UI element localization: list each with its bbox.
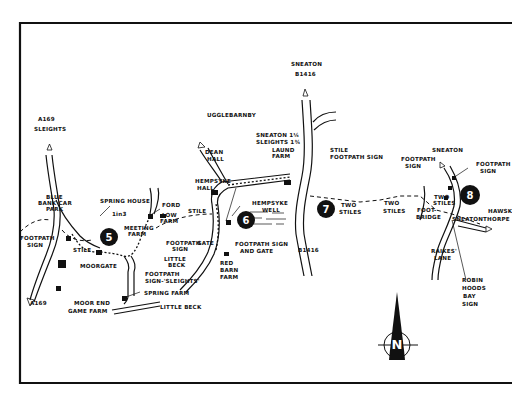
label-laund-farm-2: FARM xyxy=(272,153,290,159)
label-stile-west: STILE xyxy=(73,247,91,253)
label-gate: GATE xyxy=(197,240,214,246)
walking-route-map: 5 6 7 8 N A169 SLEIGHTS BLUE BANK CAR PA… xyxy=(0,0,512,406)
label-footpath-sign-gate-1: FOOTPATH SIGN xyxy=(235,241,288,247)
label-footpath-sign-8b: SIGN xyxy=(480,168,496,174)
label-rhb-3: BAY xyxy=(463,293,476,299)
waypoint-7: 7 xyxy=(317,200,335,218)
compass-letter: N xyxy=(392,337,403,352)
label-rhb-4: SIGN xyxy=(462,301,478,307)
label-b1416-north: B1416 xyxy=(295,71,316,77)
waypoint-8: 8 xyxy=(460,185,480,205)
label-little-beck-stream-2: BECK xyxy=(168,262,186,268)
water-lake xyxy=(250,212,286,224)
label-footpath-sign-sleights-2: SIGN-'SLEIGHTS' xyxy=(145,278,200,284)
label-blue-bank-3: PARK xyxy=(46,206,64,212)
label-red-barn-3: FARM xyxy=(220,274,238,280)
label-two-stiles-3b: STILES xyxy=(433,200,456,206)
label-low-farm-2: FARM xyxy=(160,218,178,224)
label-hempsyke-hall-1: HEMPSYKE xyxy=(195,178,231,184)
label-stile-footpath-1: STILE xyxy=(330,147,348,153)
label-sneaton-north: SNEATON xyxy=(291,61,322,67)
waypoint-number: 6 xyxy=(243,215,250,226)
label-raikes-lane-2: LANE xyxy=(434,255,451,261)
label-moorgate: MOORGATE xyxy=(80,263,117,269)
label-dean-hall-1: DEAN xyxy=(205,149,223,155)
label-moor-end-2: GAME FARM xyxy=(68,308,108,314)
label-hempsyke-hall-2: HALL xyxy=(197,185,214,191)
label-footbridge-1: FOOT- xyxy=(417,207,437,213)
waypoint-5: 5 xyxy=(100,228,118,246)
compass-north-icon: N xyxy=(378,292,418,360)
label-1in3: 1in3 xyxy=(112,211,126,217)
label-b1416-south: B1416 xyxy=(298,247,319,253)
label-sneaton-distance-2: SLEIGHTS 1¾ xyxy=(256,139,300,145)
label-hempsyke-well-1: HEMPSYKE xyxy=(252,200,288,206)
label-hawsker: HAWSK xyxy=(488,208,512,214)
label-two-stiles-1b: STILES xyxy=(339,209,362,215)
label-ford: FORD xyxy=(162,202,180,208)
label-stile-mid: STILE xyxy=(188,208,206,214)
label-spring-farm: SPRING FARM xyxy=(144,290,190,296)
label-two-stiles-2a: TWO xyxy=(384,200,399,206)
label-spring-house: SPRING HOUSE xyxy=(100,198,150,204)
label-footpath-sign-west-1: FOOTPATH xyxy=(20,235,55,241)
label-footpath-sign-east-2: SIGN xyxy=(405,163,421,169)
label-little-beck: LITTLE BECK xyxy=(160,304,202,310)
label-two-stiles-2b: STILES xyxy=(383,208,406,214)
label-footpath-sign-low-2: SIGN xyxy=(172,246,188,252)
label-moor-end-1: MOOR END xyxy=(74,300,110,306)
label-footpath-sign-east-1: FOOTPATH xyxy=(401,156,436,162)
label-dean-hall-2: HALL xyxy=(207,156,224,162)
label-sneaton: SNEATON xyxy=(432,147,463,153)
label-sneaton-distance-1: SNEATON 1¼ xyxy=(256,132,299,138)
waypoint-number: 7 xyxy=(323,204,330,215)
label-footpath-sign-gate-2: AND GATE xyxy=(240,248,273,254)
label-hempsyke-well-2: WELL xyxy=(262,207,280,213)
label-red-barn-1: RED xyxy=(220,260,234,266)
label-a169-south: A169 xyxy=(30,300,47,306)
label-red-barn-2: BARN xyxy=(220,267,239,273)
road-a169 xyxy=(27,144,60,306)
waypoint-number: 8 xyxy=(467,190,474,201)
label-footpath-sign-west-2: SIGN xyxy=(27,242,43,248)
label-raikes-lane-1: RAIKES' xyxy=(431,248,457,254)
waypoint-6: 6 xyxy=(237,211,255,229)
waypoint-number: 5 xyxy=(106,232,113,243)
label-sleights: SLEIGHTS xyxy=(34,126,66,132)
label-footpath-sign-sleights-1: FOOTPATH xyxy=(145,271,180,277)
label-footbridge-2: BRIDGE xyxy=(416,214,441,220)
label-stile-footpath-2: FOOTPATH SIGN xyxy=(330,154,383,160)
label-meeting-farm-2: FARM xyxy=(128,231,146,237)
label-footpath-sign-8a: FOOTPATH xyxy=(476,161,511,167)
label-a169-north: A169 xyxy=(38,116,55,122)
label-ugglebarnby: UGGLEBARNBY xyxy=(207,112,257,118)
label-rhb-2: HOODS xyxy=(462,285,486,291)
label-sneatonthorpe: SNEATONTHORPE xyxy=(452,216,510,222)
label-two-stiles-1a: TWO xyxy=(341,202,356,208)
